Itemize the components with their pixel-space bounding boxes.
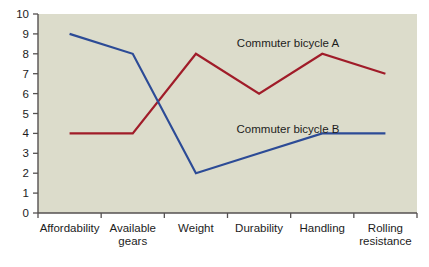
y-axis-tick-labels: 012345678910 xyxy=(16,8,29,219)
y-axis-ticks xyxy=(33,14,38,213)
y-axis-tick-label: 9 xyxy=(23,28,29,40)
series-label: Commuter bicycle A xyxy=(237,37,340,49)
y-axis-tick-label: 7 xyxy=(23,68,29,80)
chart-canvas: 012345678910 AffordabilityAvailablegears… xyxy=(0,0,429,267)
y-axis-tick-label: 6 xyxy=(23,88,29,100)
x-axis-category-label: Durability xyxy=(235,222,283,234)
y-axis-tick-label: 3 xyxy=(23,147,29,159)
line-chart: 012345678910 AffordabilityAvailablegears… xyxy=(0,0,429,267)
y-axis-tick-label: 2 xyxy=(23,167,29,179)
y-axis-tick-label: 1 xyxy=(23,187,29,199)
y-axis-tick-label: 8 xyxy=(23,48,29,60)
x-axis-ticks xyxy=(38,213,417,218)
x-axis-category-label: Available xyxy=(110,222,156,234)
y-axis: 012345678910 xyxy=(16,8,38,219)
x-axis-category-labels: AffordabilityAvailablegearsWeightDurabil… xyxy=(40,222,412,247)
x-axis-category-label: gears xyxy=(118,235,147,247)
x-axis-category-label: Weight xyxy=(178,222,214,234)
series-label: Commuter bicycle B xyxy=(237,123,340,135)
y-axis-tick-label: 4 xyxy=(23,127,30,139)
y-axis-tick-label: 10 xyxy=(16,8,29,20)
x-axis-category-label: resistance xyxy=(359,235,411,247)
x-axis-category-label: Handling xyxy=(300,222,345,234)
plot-area-background xyxy=(38,14,417,213)
x-axis: AffordabilityAvailablegearsWeightDurabil… xyxy=(38,213,417,247)
y-axis-tick-label: 0 xyxy=(23,207,29,219)
x-axis-category-label: Rolling xyxy=(368,222,403,234)
y-axis-tick-label: 5 xyxy=(23,108,29,120)
x-axis-category-label: Affordability xyxy=(40,222,100,234)
